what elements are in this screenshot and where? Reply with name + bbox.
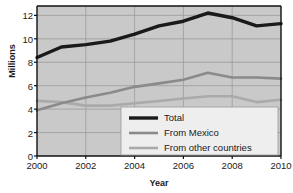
y-tick-label: 12 (3, 10, 33, 21)
legend-label: From Mexico (164, 127, 219, 138)
x-tick-label: 2004 (115, 160, 155, 171)
x-axis-title: Year (37, 178, 281, 188)
x-tick-label: 2000 (17, 160, 57, 171)
immigration-line-chart: 024681012 200020022004200620082010 Milli… (0, 0, 293, 193)
legend-label: Total (164, 112, 184, 123)
x-tick-label: 2010 (261, 160, 293, 171)
y-axis-title: Millions (7, 29, 17, 93)
y-tick-label: 4 (3, 104, 33, 115)
x-tick-label: 2002 (66, 160, 106, 171)
y-tick-label: 2 (3, 127, 33, 138)
legend-label: From other countries (164, 142, 252, 153)
x-tick-label: 2006 (163, 160, 203, 171)
x-tick-label: 2008 (212, 160, 252, 171)
